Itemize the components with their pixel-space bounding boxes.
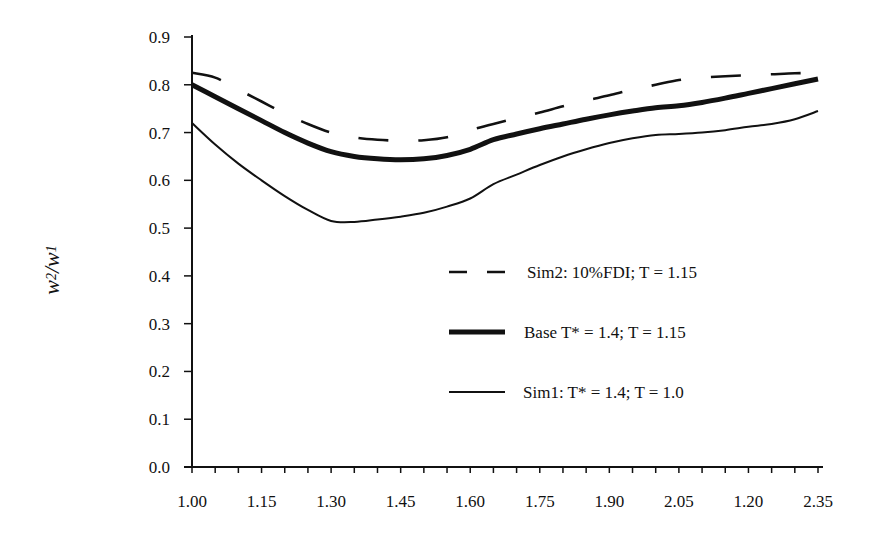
x-tick-label: 1.75 [525, 492, 555, 511]
y-tick-label: 0.7 [149, 124, 171, 143]
legend-label-sim1: Sim1: T* = 1.4; T = 1.0 [523, 383, 684, 402]
y-tick-label: 0.1 [149, 410, 170, 429]
ylabel-w1: w [39, 252, 65, 267]
series-base-thick [192, 79, 818, 160]
series-group [192, 73, 818, 222]
y-axis: 0.00.10.20.30.40.50.60.70.80.9 [149, 28, 192, 477]
y-tick-label: 0.9 [149, 28, 170, 47]
ylabel-sub1: 1 [44, 245, 60, 252]
legend-label-base: Base T* = 1.4; T = 1.15 [524, 323, 686, 342]
legend: Sim2: 10%FDI; T = 1.15 Base T* = 1.4; T … [449, 263, 697, 402]
y-tick-label: 0.5 [149, 219, 170, 238]
x-tick-label: 1.15 [247, 492, 277, 511]
y-tick-label: 0.0 [149, 458, 170, 477]
legend-label-sim2: Sim2: 10%FDI; T = 1.15 [527, 263, 697, 282]
y-axis-label: w2 /w1 [22, 240, 82, 300]
y-tick-label: 0.2 [149, 362, 170, 381]
y-tick-label: 0.8 [149, 76, 170, 95]
y-tick-label: 0.3 [149, 315, 170, 334]
ylabel-w2: w [39, 280, 65, 295]
y-tick-label: 0.4 [149, 267, 171, 286]
x-tick-label: 1.20 [734, 492, 764, 511]
x-axis: 1.001.151.301.451.601.751.902.051.202.35 [177, 467, 833, 511]
x-tick-label: 1.30 [316, 492, 346, 511]
ylabel-slash: / [39, 267, 65, 273]
x-tick-label: 1.90 [594, 492, 624, 511]
x-tick-label: 2.35 [803, 492, 833, 511]
x-tick-label: 1.00 [177, 492, 207, 511]
line-chart: 0.00.10.20.30.40.50.60.70.80.9 1.001.151… [0, 0, 896, 542]
ylabel-sub2: 2 [44, 273, 60, 280]
x-tick-label: 1.45 [386, 492, 416, 511]
series-sim1-thin [192, 111, 818, 222]
x-tick-label: 2.05 [664, 492, 694, 511]
x-tick-label: 1.60 [455, 492, 485, 511]
y-tick-label: 0.6 [149, 171, 170, 190]
